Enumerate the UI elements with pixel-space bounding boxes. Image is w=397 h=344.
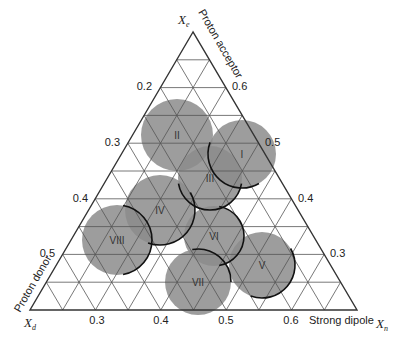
tick-bottom: 0.3: [89, 314, 104, 326]
grid-line: [324, 282, 340, 310]
tick-left: 0.4: [73, 192, 88, 204]
tick-bottom: 0.4: [153, 314, 168, 326]
group-label-vi: VI: [209, 231, 218, 242]
group-label-iv: IV: [155, 205, 165, 216]
group-label-iii: III: [206, 173, 214, 184]
ternary-canvas: IIIIIIIVVVIVIIVIII 0.20.30.40.50.60.50.4…: [0, 0, 397, 344]
tick-bottom: 0.5: [218, 314, 233, 326]
tick-bottom: 0.6: [283, 314, 298, 326]
tick-right: 0.4: [298, 192, 313, 204]
axis-right: Strong dipole X n: [309, 314, 388, 333]
ternary-diagram: IIIIIIIVVVIVIIVIII 0.20.30.40.50.60.50.4…: [0, 0, 397, 344]
tick-right: 0.5: [265, 136, 280, 148]
group-label-vii: VII: [192, 277, 204, 288]
tick-right: 0.6: [232, 80, 247, 92]
tick-left: 0.3: [105, 136, 120, 148]
axis-top: X e Proton acceptor: [177, 7, 246, 81]
group-label-ii: II: [174, 130, 180, 141]
axis-top-subscript: e: [186, 20, 190, 29]
axis-left: X d Proton donor: [11, 253, 53, 332]
axis-right-title: Strong dipole: [309, 314, 374, 326]
group-label-v: V: [259, 260, 266, 271]
grid-line: [46, 282, 62, 310]
axis-right-subscript: n: [384, 324, 388, 333]
tick-left: 0.2: [137, 80, 152, 92]
axis-left-subscript: d: [32, 323, 37, 332]
group-label-viii: VIII: [109, 235, 124, 246]
tick-right: 0.3: [330, 247, 345, 259]
group-label-i: I: [241, 149, 244, 160]
